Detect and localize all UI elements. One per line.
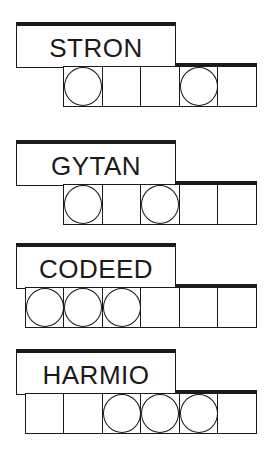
answer-cell[interactable]: [102, 66, 142, 107]
scrambled-word: GYTAN: [51, 153, 141, 179]
circled-answer-cell[interactable]: [63, 66, 103, 107]
circle-marker-icon: [64, 67, 102, 106]
circled-answer-cell[interactable]: [25, 287, 65, 328]
answer-cell[interactable]: [140, 287, 180, 328]
circled-answer-cell[interactable]: [140, 393, 180, 434]
circled-answer-cell[interactable]: [63, 184, 103, 225]
scrambled-word: STRON: [49, 35, 143, 61]
scrambled-word-box: HARMIO: [16, 349, 176, 395]
answer-cell[interactable]: [140, 66, 180, 107]
answer-cells: [25, 393, 258, 434]
answer-cell[interactable]: [217, 184, 257, 225]
circle-marker-icon: [141, 185, 179, 224]
circled-answer-cell[interactable]: [179, 66, 219, 107]
answer-cell[interactable]: [25, 393, 65, 434]
circled-answer-cell[interactable]: [63, 287, 103, 328]
scrambled-word-box: GYTAN: [16, 140, 176, 186]
answer-cell[interactable]: [217, 66, 257, 107]
circle-marker-icon: [180, 67, 218, 106]
answer-cells: [63, 66, 257, 107]
answer-cell[interactable]: [217, 393, 257, 434]
scrambled-word: HARMIO: [43, 362, 150, 388]
scrambled-word-box: STRON: [16, 22, 176, 68]
answer-cell[interactable]: [217, 287, 257, 328]
circle-marker-icon: [141, 394, 179, 433]
circled-answer-cell[interactable]: [179, 393, 219, 434]
circle-marker-icon: [64, 185, 102, 224]
cut-off-text-fragment: [50, 0, 220, 2]
circle-marker-icon: [180, 394, 218, 433]
circled-answer-cell[interactable]: [140, 184, 180, 225]
scrambled-word-box: CODEED: [16, 243, 176, 289]
answer-cells: [25, 287, 258, 328]
answer-cell[interactable]: [63, 393, 103, 434]
circle-marker-icon: [64, 288, 102, 327]
answer-cell[interactable]: [179, 287, 219, 328]
answer-cell[interactable]: [102, 184, 142, 225]
answer-cell[interactable]: [179, 184, 219, 225]
circled-answer-cell[interactable]: [102, 287, 142, 328]
circle-marker-icon: [26, 288, 64, 327]
scrambled-word: CODEED: [39, 256, 153, 282]
circle-marker-icon: [103, 394, 141, 433]
answer-cells: [63, 184, 257, 225]
circled-answer-cell[interactable]: [102, 393, 142, 434]
circle-marker-icon: [103, 288, 141, 327]
